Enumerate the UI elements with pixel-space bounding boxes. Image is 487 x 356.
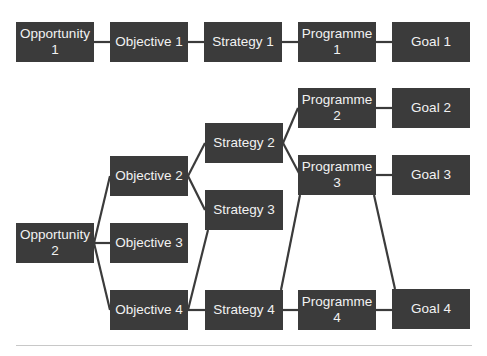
node-programme-1: Programme 1	[298, 22, 376, 62]
node-strategy-4: Strategy 4	[205, 290, 283, 330]
node-programme-2: Programme 2	[298, 88, 376, 128]
node-objective-1: Objective 1	[110, 22, 188, 62]
node-opportunity-2: Opportunity 2	[16, 223, 94, 263]
node-programme-3: Programme 3	[298, 155, 376, 195]
node-goal-4: Goal 4	[392, 289, 470, 329]
node-goal-1: Goal 1	[392, 22, 470, 62]
node-objective-3: Objective 3	[110, 223, 188, 263]
node-strategy-3: Strategy 3	[205, 190, 283, 230]
node-strategy-1: Strategy 1	[204, 22, 282, 62]
node-programme-4: Programme 4	[298, 290, 376, 330]
node-opportunity-1: Opportunity 1	[16, 22, 94, 62]
node-objective-2: Objective 2	[110, 156, 188, 196]
node-objective-4: Objective 4	[110, 290, 188, 330]
node-strategy-2: Strategy 2	[205, 123, 283, 163]
bottom-divider	[16, 345, 472, 346]
node-goal-3: Goal 3	[392, 155, 470, 195]
node-goal-2: Goal 2	[392, 88, 470, 128]
